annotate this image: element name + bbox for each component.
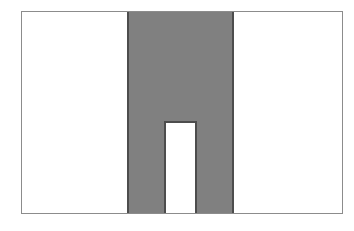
diagram-canvas xyxy=(0,0,354,231)
pi-shape xyxy=(22,12,342,213)
pi-shape-polygon xyxy=(128,12,233,213)
outer-border-rectangle xyxy=(21,11,343,214)
plot-area xyxy=(22,12,342,213)
